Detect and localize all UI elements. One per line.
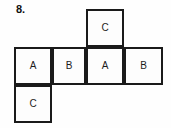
net-face-letter: B — [140, 61, 147, 71]
net-face-letter: B — [66, 61, 73, 71]
cube-net-figure: C A B A B C — [0, 0, 171, 128]
net-face-bottom-c: C — [14, 85, 52, 123]
worksheet-figure-page: 8. C A B A B C — [0, 0, 171, 128]
net-face-row-a1: A — [14, 47, 52, 85]
net-face-top-c: C — [86, 9, 124, 47]
net-face-row-b2: B — [124, 47, 163, 85]
net-face-row-b1: B — [52, 47, 86, 85]
net-face-letter: C — [101, 23, 108, 33]
net-face-letter: A — [30, 61, 37, 71]
net-face-letter: C — [29, 99, 36, 109]
net-face-letter: A — [102, 61, 109, 71]
net-face-row-a2: A — [86, 47, 124, 85]
